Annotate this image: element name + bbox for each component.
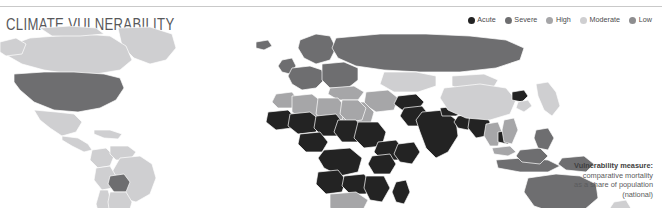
legend-label-moderate: Moderate bbox=[589, 16, 620, 24]
legend-swatch-high bbox=[546, 17, 553, 24]
region-new-zealand bbox=[610, 200, 632, 208]
legend-label-severe: Severe bbox=[514, 16, 537, 24]
legend-item-severe: Severe bbox=[505, 16, 538, 24]
region-united-states bbox=[14, 72, 124, 112]
legend-label-low: Low bbox=[639, 16, 652, 24]
region-canada-arctic bbox=[40, 26, 104, 36]
region-mexico bbox=[34, 110, 82, 136]
region-iceland bbox=[256, 40, 272, 50]
legend-swatch-moderate bbox=[580, 17, 587, 24]
legend-swatch-severe bbox=[505, 17, 512, 24]
region-philippines bbox=[534, 128, 554, 150]
legend-swatch-acute bbox=[468, 17, 475, 24]
region-japan bbox=[536, 82, 560, 116]
region-mozambique bbox=[364, 176, 390, 202]
region-russia bbox=[332, 34, 524, 72]
region-madagascar bbox=[392, 180, 410, 204]
legend-swatch-low bbox=[629, 17, 636, 24]
caption-title: Vulnerability measure: bbox=[503, 161, 653, 170]
legend-item-acute: Acute bbox=[468, 16, 496, 24]
region-canada bbox=[8, 34, 132, 74]
region-somalia bbox=[394, 142, 420, 164]
region-south-korea bbox=[516, 100, 532, 112]
legend-item-low: Low bbox=[629, 16, 652, 24]
legend-label-acute: Acute bbox=[477, 16, 496, 24]
region-central-america bbox=[62, 136, 92, 152]
caption-line-2: as a share of population bbox=[503, 180, 653, 189]
legend-item-high: High bbox=[546, 16, 570, 24]
region-kazakhstan bbox=[380, 72, 436, 92]
region-caribbean bbox=[94, 130, 122, 139]
region-eastern-europe bbox=[322, 62, 358, 88]
region-malaysia bbox=[492, 146, 516, 156]
region-south-africa bbox=[330, 192, 368, 208]
region-india bbox=[416, 110, 458, 158]
legend-label-high: High bbox=[556, 16, 571, 24]
caption-line-3: (national) bbox=[503, 190, 653, 199]
region-vietnam bbox=[502, 118, 518, 144]
region-western-europe bbox=[288, 66, 324, 90]
legend: Acute Severe High Moderate Low bbox=[468, 16, 652, 24]
region-kenya bbox=[368, 154, 396, 174]
caption: Vulnerability measure: comparative morta… bbox=[503, 161, 653, 199]
legend-item-moderate: Moderate bbox=[580, 16, 620, 24]
region-scandinavia bbox=[298, 34, 336, 64]
caption-line-1: comparative mortality bbox=[503, 171, 653, 180]
